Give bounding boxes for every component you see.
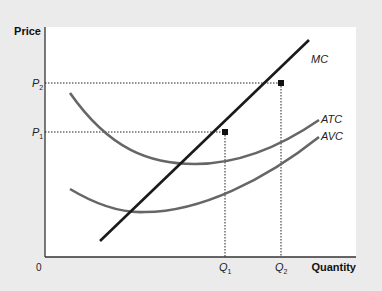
x-axis-label: Quantity	[311, 261, 356, 273]
cost-curves-chart: Price Quantity 0 P2 P1 Q1 Q2 MC ATC AVC	[0, 0, 382, 291]
avc-label: AVC	[320, 130, 343, 142]
point-q1-p1	[222, 129, 228, 135]
p1-label: P1	[32, 126, 43, 140]
y-axis-label: Price	[14, 25, 41, 37]
q2-label: Q2	[275, 261, 288, 275]
point-q2-p2	[278, 80, 284, 86]
origin-label: 0	[36, 262, 42, 273]
plot-area	[45, 27, 356, 257]
q1-label: Q1	[219, 261, 232, 275]
p2-label: P2	[32, 77, 43, 91]
mc-label: MC	[311, 53, 328, 65]
atc-label: ATC	[320, 113, 342, 125]
